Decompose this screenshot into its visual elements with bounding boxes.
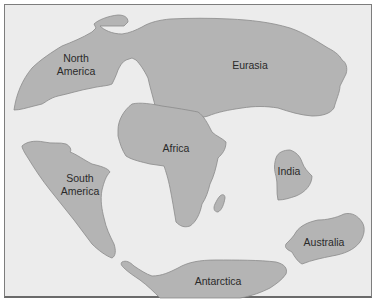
label-eurasia: Eurasia bbox=[232, 59, 268, 71]
label-south-america-2: America bbox=[61, 185, 100, 197]
south-america-shape bbox=[22, 141, 115, 258]
label-antarctica: Antarctica bbox=[195, 275, 242, 287]
label-north-america-2: America bbox=[57, 65, 96, 77]
label-india: India bbox=[278, 165, 301, 177]
continents-map: North America Eurasia Africa South Ameri… bbox=[0, 0, 378, 304]
madagascar-shape bbox=[214, 195, 225, 212]
label-africa: Africa bbox=[163, 142, 190, 154]
label-north-america-1: North bbox=[63, 52, 89, 64]
label-south-america-1: South bbox=[66, 172, 94, 184]
label-australia: Australia bbox=[304, 236, 345, 248]
africa-shape bbox=[118, 103, 226, 227]
